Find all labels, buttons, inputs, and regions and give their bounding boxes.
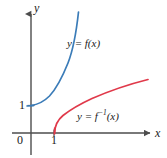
- origin-label: 0: [17, 134, 23, 146]
- curve-function-fx: [31, 12, 79, 106]
- curve-label-inverse-suffix: (x): [107, 110, 119, 122]
- y-axis-tick-label-1: 1: [19, 99, 25, 111]
- curve-label-inverse-exponent: −1: [98, 108, 107, 117]
- curve-label-inverse-prefix: y = f: [77, 110, 98, 122]
- x-axis-tick-label-1: 1: [51, 134, 57, 146]
- plot-canvas: [0, 0, 167, 158]
- curve-inverse-function: [55, 80, 149, 134]
- inverse-function-graph-figure: y x 1 0 1 y = f(x) y = f−1(x): [0, 0, 167, 158]
- x-axis-label: x: [155, 127, 160, 139]
- curve-label-inverse-function: y = f−1(x): [77, 109, 119, 122]
- y-axis-label: y: [34, 2, 39, 14]
- curve-label-function: y = f(x): [67, 38, 100, 49]
